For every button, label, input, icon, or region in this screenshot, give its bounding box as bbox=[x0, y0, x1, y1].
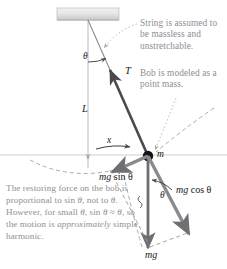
label-theta-bottom: θ bbox=[160, 190, 165, 200]
theta-top-arc bbox=[88, 59, 106, 63]
restoring-text-5: ≈ bbox=[107, 207, 117, 217]
label-weight-mg-text: mg bbox=[145, 249, 157, 260]
ceiling-support bbox=[57, 8, 119, 20]
label-weight-mg: mg bbox=[145, 249, 157, 260]
label-mg-cos-theta: mg cos θ bbox=[176, 184, 211, 195]
vertical-reference-line bbox=[85, 20, 90, 168]
label-mg-sin-theta-pre: mg bbox=[99, 171, 111, 182]
mg-sin-theta-vector bbox=[112, 156, 148, 172]
label-mg-sin-theta: mg sin θ bbox=[99, 171, 133, 182]
label-theta-top: θ bbox=[83, 51, 88, 61]
mg-cos-theta-vector bbox=[148, 156, 189, 234]
label-displacement-x: x bbox=[107, 135, 111, 145]
note-restoring-force: The restoring force on the bob is propor… bbox=[6, 182, 139, 242]
displacement-arrow bbox=[96, 146, 130, 149]
restoring-text-4: , sin bbox=[85, 207, 103, 217]
leader-string-note bbox=[104, 24, 137, 48]
pendulum-figure: String is assumed to be massless and uns… bbox=[0, 0, 227, 269]
label-mg-cos-theta-post: cos θ bbox=[188, 184, 211, 195]
label-mass-m: m bbox=[157, 149, 164, 159]
leader-dashed-right bbox=[156, 108, 214, 152]
note-bob-assumption: Bob is modeled as a point mass. bbox=[140, 68, 226, 91]
restoring-emphasis: approximately bbox=[57, 219, 111, 229]
label-tension-T: T bbox=[125, 65, 131, 76]
restoring-text-2: , not to bbox=[82, 195, 111, 205]
leader-bob-note bbox=[155, 98, 176, 150]
label-mg-sin-theta-post: sin θ bbox=[111, 171, 132, 182]
note-string-assumption: String is assumed to be massless and uns… bbox=[140, 18, 226, 52]
label-length-L: L bbox=[82, 103, 88, 114]
label-mg-cos-theta-pre: mg bbox=[176, 184, 188, 195]
